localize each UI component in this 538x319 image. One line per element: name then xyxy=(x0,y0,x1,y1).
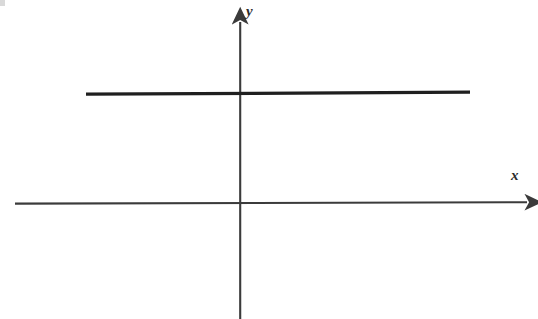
x-axis-label: x xyxy=(511,168,519,183)
constant-function-line xyxy=(86,92,470,94)
y-axis-label: y xyxy=(246,4,253,19)
coordinate-plane-figure: y x xyxy=(0,0,538,319)
axes-and-curve-canvas xyxy=(0,0,538,319)
x-axis-line xyxy=(15,202,527,203)
